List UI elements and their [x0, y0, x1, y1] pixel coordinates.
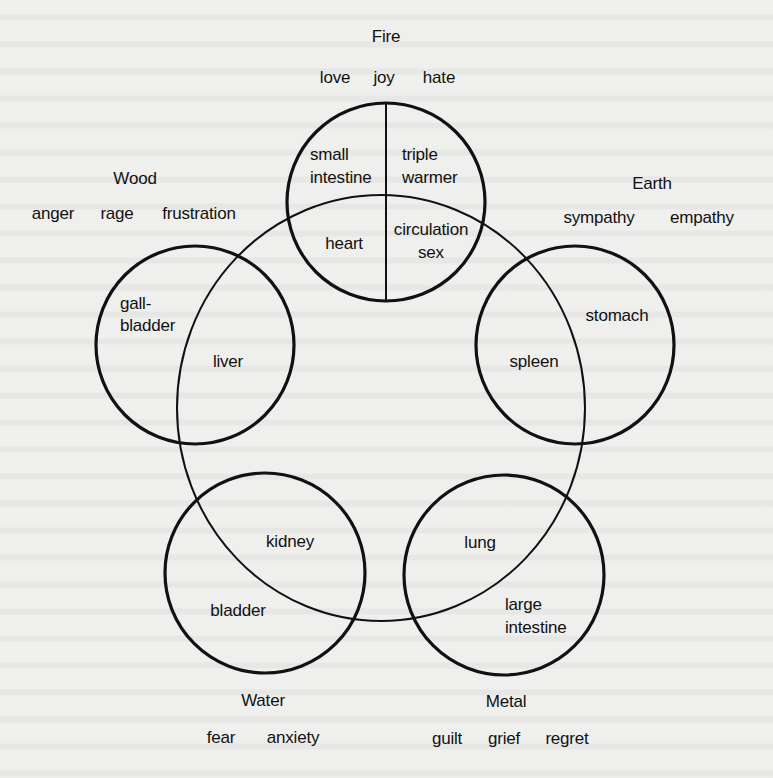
- element-name-water: Water: [241, 691, 285, 710]
- wood-circle: [96, 246, 294, 444]
- five-elements-diagram: [0, 0, 773, 778]
- organ-gall-bladder-line1: gall-: [120, 294, 151, 313]
- emotion-rage: rage: [100, 204, 133, 223]
- emotion-joy: joy: [373, 68, 394, 87]
- organ-triple-warmer-line2: warmer: [402, 168, 457, 187]
- element-name-metal: Metal: [486, 692, 527, 711]
- emotion-frustration: frustration: [162, 204, 235, 223]
- element-name-earth: Earth: [632, 174, 672, 193]
- emotion-sympathy: sympathy: [563, 208, 634, 227]
- organ-kidney: kidney: [266, 532, 314, 551]
- emotion-anxiety: anxiety: [267, 728, 319, 747]
- organ-gall-bladder-line2: bladder: [120, 316, 175, 335]
- organ-circulation-sex-line2: sex: [418, 243, 444, 262]
- organ-large-intestine-line2: intestine: [505, 618, 567, 637]
- organ-circulation-sex-line1: circulation: [394, 220, 468, 239]
- organ-triple-warmer-line1: triple: [402, 145, 438, 164]
- organ-liver: liver: [213, 352, 243, 371]
- organ-large-intestine-line1: large: [505, 595, 542, 614]
- emotion-guilt: guilt: [432, 729, 462, 748]
- organ-bladder: bladder: [210, 601, 265, 620]
- organ-heart: heart: [325, 234, 363, 253]
- organ-small-intestine-line1: small: [310, 145, 349, 164]
- organ-stomach: stomach: [586, 306, 649, 325]
- metal-circle: [404, 475, 604, 675]
- emotion-hate: hate: [423, 68, 455, 87]
- organ-small-intestine-line2: intestine: [310, 168, 372, 187]
- emotion-empathy: empathy: [670, 208, 734, 227]
- emotion-anger: anger: [32, 204, 74, 223]
- organ-lung: lung: [464, 533, 495, 552]
- element-name-wood: Wood: [113, 169, 156, 188]
- organ-spleen: spleen: [510, 352, 559, 371]
- emotion-fear: fear: [207, 728, 236, 747]
- emotion-love: love: [320, 68, 350, 87]
- water-circle: [165, 473, 365, 673]
- emotion-regret: regret: [545, 729, 588, 748]
- emotion-grief: grief: [488, 729, 520, 748]
- element-name-fire: Fire: [372, 27, 400, 46]
